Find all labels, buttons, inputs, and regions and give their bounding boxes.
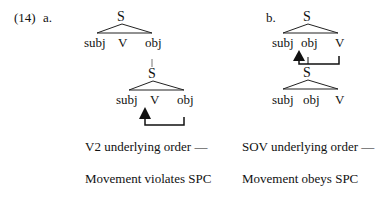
tree-a-upper-leaf-subj: subj	[84, 36, 106, 49]
tree-a-lower-triangle	[129, 81, 184, 90]
arrowhead-up-icon	[139, 107, 151, 119]
tree-b-upper-root: S	[303, 10, 311, 24]
tree-b-lower-leaf-subj: subj	[272, 93, 294, 106]
tree-b-lower-leaf-v: V	[335, 93, 344, 106]
tree-b-upper-leaf-v: V	[335, 36, 344, 49]
tree-b-upper-triangle	[283, 24, 338, 33]
panel-b-label: b.	[266, 11, 276, 24]
panel-b-caption-line2: Movement obeys SPC	[242, 172, 358, 185]
tree-a-lower-leaf-obj: obj	[177, 93, 194, 106]
tree-b-lower-triangle	[283, 80, 338, 89]
tree-b-lower-leaf-obj: obj	[303, 93, 320, 106]
tree-a-lower-leaf-v: V	[150, 93, 159, 106]
tree-a-lower-leaf-subj: subj	[116, 93, 138, 106]
panel-b-caption-line1: SOV underlying order —	[242, 140, 374, 153]
tree-a-upper-triangle	[97, 24, 152, 33]
tree-a-upper-leaf-v: V	[118, 36, 127, 49]
tree-a-upper-root: S	[117, 10, 125, 24]
example-number: (14)	[14, 11, 36, 24]
arrowhead-up-icon	[293, 50, 305, 61]
tree-a-upper-leaf-obj: obj	[145, 36, 162, 49]
tree-a-lower-root: S	[148, 67, 156, 81]
tree-a-movement-arrow	[145, 116, 184, 125]
tree-b-movement-arrow	[299, 56, 339, 64]
panel-a-caption-line1: V2 underlying order —	[85, 140, 207, 153]
tree-b-upper-leaf-obj: obj	[301, 36, 318, 49]
panel-a-caption-line2: Movement violates SPC	[85, 172, 211, 185]
tree-b-lower-root: S	[303, 66, 311, 80]
panel-a-label: a.	[43, 11, 52, 24]
tree-b-upper-leaf-subj: subj	[272, 36, 294, 49]
